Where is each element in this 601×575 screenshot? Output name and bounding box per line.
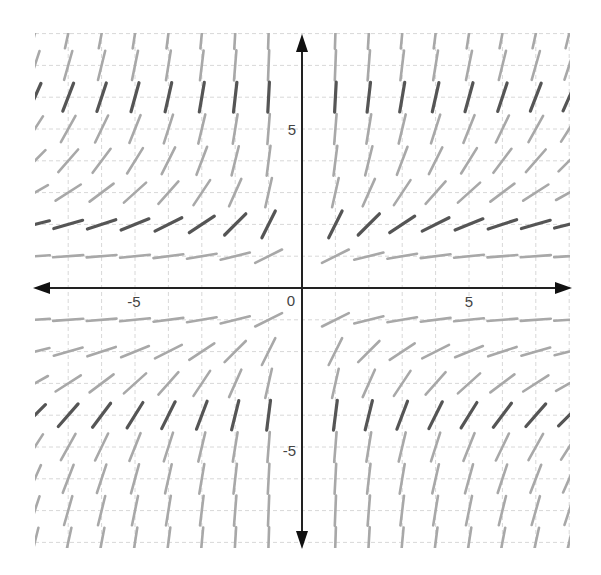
- y-tick-label-neg5: -5: [283, 442, 296, 459]
- slope-segment: [87, 255, 117, 257]
- slope-segment: [335, 19, 336, 49]
- slope-segment: [335, 464, 337, 494]
- slope-segment: [401, 19, 404, 49]
- slope-segment: [367, 82, 370, 112]
- slope-segment: [234, 19, 236, 49]
- slope-segment: [521, 319, 551, 321]
- slope-segment: [335, 82, 337, 112]
- slope-segment: [268, 82, 270, 112]
- slope-segment: [200, 19, 203, 49]
- y-axis-up-arrow-icon: [296, 34, 308, 52]
- axes: [33, 34, 572, 549]
- slope-segment: [554, 319, 584, 321]
- slope-segment: [555, 221, 584, 228]
- slope-segment: [20, 319, 50, 321]
- slope-segment: [268, 19, 269, 49]
- slope-segment: [400, 496, 404, 526]
- slope-segment: [488, 255, 518, 257]
- slope-segment: [268, 496, 269, 526]
- slope-segment: [53, 319, 83, 321]
- slope-segment: [454, 318, 484, 321]
- slope-segment: [565, 496, 574, 525]
- y-axis-down-arrow-icon: [296, 531, 308, 549]
- slope-segment: [368, 50, 370, 80]
- slope-segment: [234, 496, 236, 526]
- slope-segment: [27, 116, 43, 141]
- slope-segment: [87, 319, 117, 321]
- slope-segment: [234, 82, 237, 112]
- x-tick-label-neg5: -5: [127, 293, 140, 310]
- y-tick-label-pos5: 5: [288, 121, 296, 138]
- slope-segment: [267, 400, 271, 430]
- slope-segment: [454, 255, 484, 258]
- slope-segment: [368, 19, 370, 49]
- slope-segment: [234, 464, 237, 494]
- slope-segment: [132, 496, 138, 525]
- slope-segment: [234, 527, 236, 557]
- slope-segment: [29, 465, 41, 492]
- slope-segment: [335, 50, 336, 80]
- slope-segment: [488, 319, 518, 321]
- slope-segment: [335, 496, 336, 526]
- x-axis-left-arrow-icon: [33, 282, 50, 294]
- slope-segment: [267, 432, 269, 462]
- slope-segment: [431, 433, 440, 462]
- slope-segment: [401, 528, 404, 558]
- origin-label: 0: [287, 292, 295, 309]
- slope-segment: [27, 434, 43, 459]
- slope-segment: [368, 527, 370, 557]
- tick-labels: -5 5 0 5 -5: [127, 121, 473, 459]
- slope-segment: [521, 255, 551, 257]
- slope-segment: [397, 147, 408, 175]
- slope-segment: [334, 400, 338, 430]
- slope-segment: [200, 51, 204, 81]
- slope-segment: [267, 114, 269, 144]
- slope-segment: [200, 528, 203, 558]
- slope-segment: [131, 83, 139, 112]
- slope-segment: [234, 50, 236, 80]
- slope-segment: [20, 255, 50, 257]
- slope-segment: [334, 432, 336, 462]
- slope-segment: [121, 219, 149, 230]
- slope-segment: [120, 318, 150, 321]
- slope-segment: [200, 496, 204, 526]
- slope-segment: [268, 50, 269, 80]
- slope-segment: [268, 527, 269, 557]
- slope-field-chart: -5 5 0 5 -5: [0, 0, 601, 575]
- slope-segment: [53, 255, 83, 257]
- slope-segment: [268, 464, 270, 494]
- slope-segment: [554, 255, 584, 257]
- slope-segment: [367, 464, 370, 494]
- slope-segment: [368, 496, 370, 526]
- x-tick-label-pos5: 5: [465, 293, 473, 310]
- slope-segment: [334, 114, 336, 144]
- slope-segment: [335, 527, 336, 557]
- slope-segment: [120, 255, 150, 258]
- slope-segment: [29, 84, 41, 111]
- slope-segment: [400, 51, 404, 81]
